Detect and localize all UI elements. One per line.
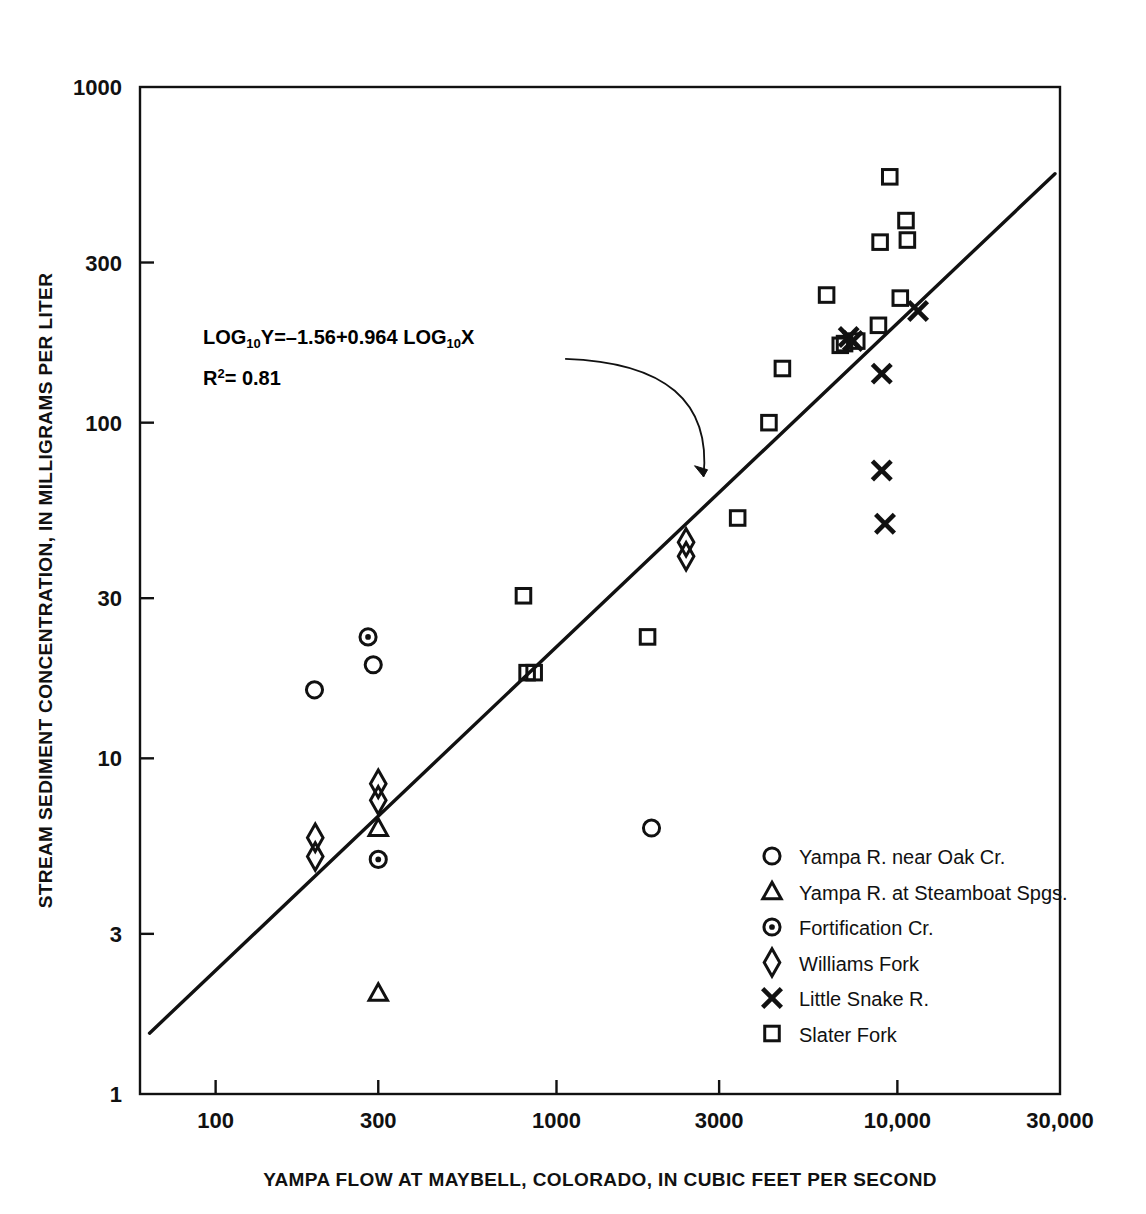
regression-equation-annotation: LOG10Y=–1.56+0.964 LOG10X R2= 0.81 <box>203 322 474 393</box>
square-marker <box>871 318 886 333</box>
legend-label-3: Williams Fork <box>799 953 920 975</box>
square-marker <box>873 235 888 250</box>
diamond-marker <box>307 843 323 870</box>
legend-label-2: Fortification Cr. <box>799 917 933 939</box>
data-point-5-3 <box>640 630 655 645</box>
x-tick-label-300: 300 <box>360 1108 397 1133</box>
equation-body: Y=–1.56+0.964 LOG <box>261 326 447 348</box>
x-axis-title: YAMPA FLOW AT MAYBELL, COLORADO, IN CUBI… <box>263 1169 937 1190</box>
data-point-5-5 <box>762 415 777 430</box>
equation-subscript-2: 10 <box>447 336 461 351</box>
square-marker <box>899 213 914 228</box>
regression-fit-line <box>150 174 1055 1034</box>
data-point-3-1 <box>307 843 323 870</box>
square-marker <box>882 170 897 185</box>
r-squared-value: = 0.81 <box>225 367 281 389</box>
equation-subscript-1: 10 <box>246 336 260 351</box>
legend-marker-4 <box>763 989 782 1008</box>
y-tick-label-100: 100 <box>85 411 122 436</box>
legend-marker-0 <box>764 848 780 864</box>
x-tick-label-1000: 1000 <box>532 1108 581 1133</box>
y-tick-label-30: 30 <box>98 586 122 611</box>
legend-label-5: Slater Fork <box>799 1024 898 1046</box>
legend-label-4: Little Snake R. <box>799 988 929 1010</box>
triangle-marker <box>369 984 387 1001</box>
r-squared-symbol: R <box>203 367 217 389</box>
square-marker <box>819 288 834 303</box>
square-marker <box>765 1026 780 1041</box>
circle-marker <box>764 848 780 864</box>
square-marker <box>900 233 915 248</box>
data-point-5-0 <box>516 588 531 603</box>
data-point-5-12 <box>873 235 888 250</box>
data-point-4-2 <box>872 364 891 383</box>
circle-dot-marker-center <box>375 857 381 863</box>
x-tick-label-100: 100 <box>197 1108 234 1133</box>
legend-marker-1 <box>763 882 781 899</box>
circle-marker <box>643 820 659 836</box>
circle-dot-marker-center <box>769 924 775 930</box>
r-squared-exponent: 2 <box>217 366 224 381</box>
data-point-5-11 <box>871 318 886 333</box>
data-point-4-4 <box>876 514 895 533</box>
legend-marker-2 <box>764 919 780 935</box>
data-point-2-1 <box>370 851 386 867</box>
scatter-plot: 1003001000300010,00030,00013103010030010… <box>0 0 1146 1214</box>
data-point-3-0 <box>307 824 323 851</box>
data-point-5-16 <box>893 291 908 306</box>
data-point-0-2 <box>643 820 659 836</box>
plot-frame <box>140 87 1060 1094</box>
data-point-1-1 <box>369 984 387 1001</box>
data-point-5-13 <box>882 170 897 185</box>
data-point-5-6 <box>775 361 790 376</box>
diamond-marker <box>307 824 323 851</box>
square-marker <box>762 415 777 430</box>
data-point-0-0 <box>306 682 322 698</box>
y-tick-label-1000: 1000 <box>73 75 122 100</box>
equation-x-term: X <box>461 326 474 348</box>
annotation-leader-line <box>565 359 704 477</box>
equation-log-prefix: LOG <box>203 326 246 348</box>
circle-marker <box>306 682 322 698</box>
legend-label-0: Yampa R. near Oak Cr. <box>799 846 1005 868</box>
data-point-5-4 <box>730 511 745 526</box>
data-point-5-7 <box>819 288 834 303</box>
data-point-4-3 <box>872 461 891 480</box>
data-point-2-0 <box>360 629 376 645</box>
legend-marker-3 <box>764 949 780 976</box>
legend-marker-5 <box>765 1026 780 1041</box>
y-tick-label-1: 1 <box>110 1082 122 1107</box>
y-tick-label-300: 300 <box>85 251 122 276</box>
data-point-5-14 <box>899 213 914 228</box>
square-marker <box>893 291 908 306</box>
y-axis-title: STREAM SEDIMENT CONCENTRATION, IN MILLIG… <box>35 273 56 909</box>
square-marker <box>516 588 531 603</box>
data-point-5-15 <box>900 233 915 248</box>
circle-marker <box>365 657 381 673</box>
diamond-marker <box>764 949 780 976</box>
triangle-marker <box>763 882 781 899</box>
figure-canvas: 1003001000300010,00030,00013103010030010… <box>0 0 1146 1214</box>
y-tick-label-10: 10 <box>98 746 122 771</box>
data-point-0-1 <box>365 657 381 673</box>
y-tick-label-3: 3 <box>110 922 122 947</box>
circle-dot-marker-center <box>365 634 371 640</box>
square-marker <box>775 361 790 376</box>
legend-label-1: Yampa R. at Steamboat Spgs. <box>799 882 1068 904</box>
square-marker <box>640 630 655 645</box>
x-tick-label-10000: 10,000 <box>864 1108 931 1133</box>
x-tick-label-30000: 30,000 <box>1026 1108 1093 1133</box>
annotation-arrowhead <box>695 466 708 477</box>
x-tick-label-3000: 3000 <box>695 1108 744 1133</box>
square-marker <box>730 511 745 526</box>
